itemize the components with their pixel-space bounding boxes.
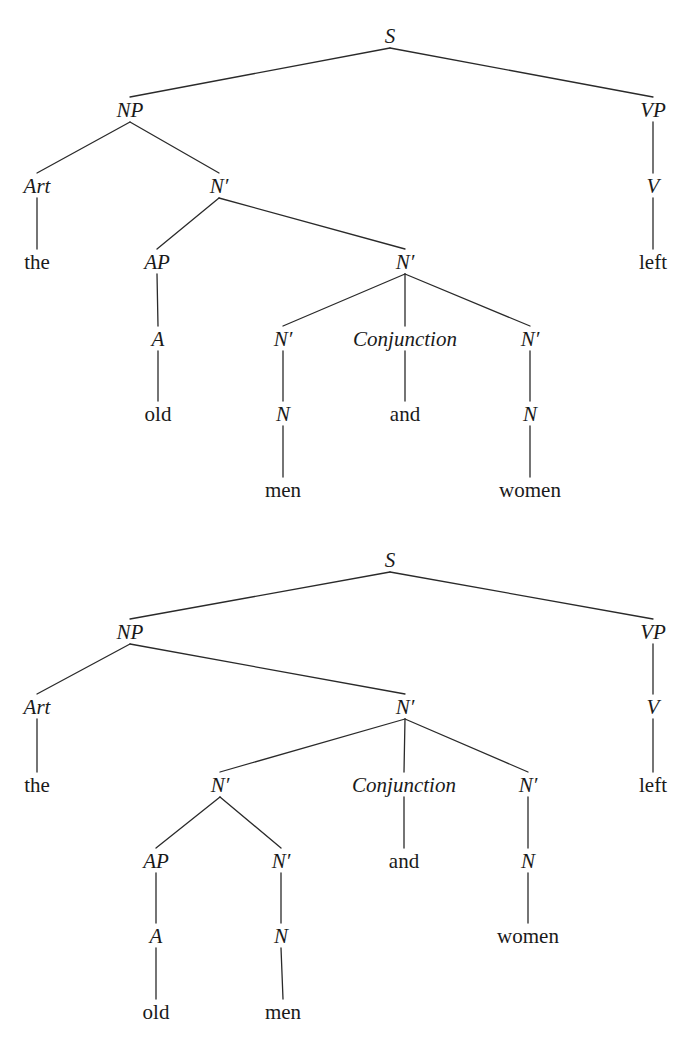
category-node-n: N bbox=[521, 851, 535, 872]
category-node-n: N bbox=[274, 926, 288, 947]
word-node-and: and bbox=[389, 851, 419, 872]
tree-edge bbox=[390, 572, 653, 619]
category-node-a: A bbox=[150, 926, 163, 947]
tree-edge bbox=[220, 719, 405, 772]
tree-edge bbox=[130, 644, 405, 694]
tree-edge bbox=[37, 644, 130, 694]
word-node-the: the bbox=[24, 775, 50, 796]
category-node-v: V bbox=[647, 697, 660, 718]
category-node-n-bar: N′ bbox=[211, 775, 230, 796]
word-node-left: left bbox=[639, 775, 667, 796]
category-node-ap: AP bbox=[143, 851, 169, 872]
tree-edge bbox=[404, 719, 405, 772]
tree-edge bbox=[220, 797, 281, 848]
category-node-conjunction: Conjunction bbox=[352, 775, 456, 796]
category-node-vp: VP bbox=[640, 622, 666, 643]
tree-edge bbox=[405, 719, 528, 772]
category-node-art: Art bbox=[24, 697, 51, 718]
tree-edge bbox=[281, 948, 283, 999]
tree-edge bbox=[156, 797, 220, 848]
word-node-men: men bbox=[265, 1002, 301, 1023]
category-node-n-bar: N′ bbox=[396, 697, 415, 718]
tree-2-edges bbox=[0, 0, 689, 1042]
tree-edge bbox=[130, 572, 390, 619]
category-node-n-bar: N′ bbox=[519, 775, 538, 796]
syntax-tree-2: SNPVPArtN′VtheN′ConjunctionN′leftAPN′and… bbox=[0, 0, 689, 1042]
category-node-n-bar: N′ bbox=[272, 851, 291, 872]
word-node-old: old bbox=[143, 1002, 170, 1023]
word-node-women: women bbox=[497, 926, 559, 947]
category-node-np: NP bbox=[117, 622, 144, 643]
category-node-s: S bbox=[385, 550, 396, 571]
